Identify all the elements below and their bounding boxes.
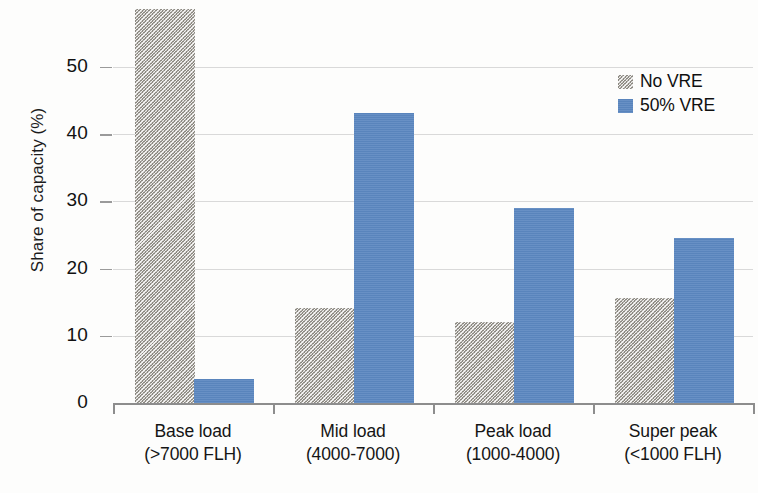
y-tick-dash <box>100 134 112 135</box>
x-category-label-line2: (4000-7000) <box>273 443 433 466</box>
bar-50-vre-2 <box>514 208 574 403</box>
x-category-label-line1: Peak load <box>475 421 552 441</box>
y-tick-dash <box>100 67 112 68</box>
x-category-label-line1: Super peak <box>629 421 718 441</box>
x-category-label-line1: Base load <box>155 421 232 441</box>
bar-50-vre-3 <box>674 238 734 403</box>
x-category-label-line2: (<1000 FLH) <box>593 443 753 466</box>
x-category-label-2: Peak load(1000-4000) <box>433 420 593 467</box>
x-category-label-1: Mid load(4000-7000) <box>273 420 433 467</box>
x-tick-mark <box>753 403 755 414</box>
legend-label-50-vre: 50% VRE <box>640 95 715 116</box>
y-tick-label: 0 <box>28 391 88 413</box>
plot-area <box>113 0 753 403</box>
y-tick-label: 10 <box>28 324 88 346</box>
bar-50-vre-0 <box>194 379 254 403</box>
y-tick-label: 40 <box>28 122 88 144</box>
bar-no-vre-2 <box>455 322 515 403</box>
x-category-label-line2: (>7000 FLH) <box>113 443 273 466</box>
x-tick-mark <box>273 403 275 414</box>
legend: No VRE 50% VRE <box>618 70 715 118</box>
gridline <box>113 134 753 135</box>
x-tick-mark <box>593 403 595 414</box>
bar-50-vre-1 <box>354 113 414 403</box>
y-tick-dash <box>100 336 112 337</box>
legend-item-50-vre[interactable]: 50% VRE <box>618 94 715 117</box>
y-tick-label: 50 <box>28 55 88 77</box>
legend-label-no-vre: No VRE <box>640 71 703 92</box>
bar-no-vre-3 <box>615 298 675 403</box>
x-category-label-line2: (1000-4000) <box>433 443 593 466</box>
x-category-label-3: Super peak(<1000 FLH) <box>593 420 753 467</box>
bar-no-vre-1 <box>295 308 355 403</box>
legend-swatch-50-vre-icon <box>618 99 633 113</box>
x-tick-mark <box>433 403 435 414</box>
y-tick-label: 30 <box>28 189 88 211</box>
y-tick-label: 20 <box>28 257 88 279</box>
x-tick-mark <box>113 403 115 414</box>
gridline <box>113 201 753 202</box>
y-tick-dash <box>100 269 112 270</box>
legend-item-no-vre[interactable]: No VRE <box>618 70 715 93</box>
x-category-label-line1: Mid load <box>320 421 385 441</box>
gridline <box>113 269 753 270</box>
gridline <box>113 67 753 68</box>
bar-no-vre-0 <box>135 9 195 403</box>
x-category-label-0: Base load(>7000 FLH) <box>113 420 273 467</box>
legend-swatch-no-vre-icon <box>618 75 633 89</box>
bar-chart: Share of capacity (%) 01020304050 Base l… <box>0 0 758 493</box>
y-tick-dash <box>100 201 112 202</box>
